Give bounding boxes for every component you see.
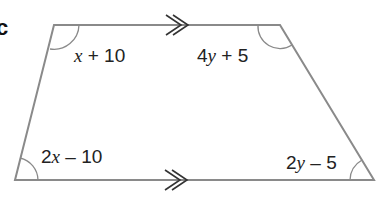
angle-label-bottom-right: 2y – 5 (286, 152, 337, 173)
angle-label-top-left: x + 10 (73, 45, 125, 66)
part-label: c (0, 15, 8, 40)
angle-arc-bottom-left (20, 158, 38, 180)
angle-label-bottom-left: 2x – 10 (41, 146, 102, 167)
angle-label-top-right: 4y + 5 (197, 45, 248, 66)
angle-arc-bottom-right (350, 160, 362, 180)
trapezium-diagram: c x + 10 4y + 5 2x – 10 2y – 5 (0, 0, 378, 206)
diagram-svg: c x + 10 4y + 5 2x – 10 2y – 5 (0, 0, 378, 206)
